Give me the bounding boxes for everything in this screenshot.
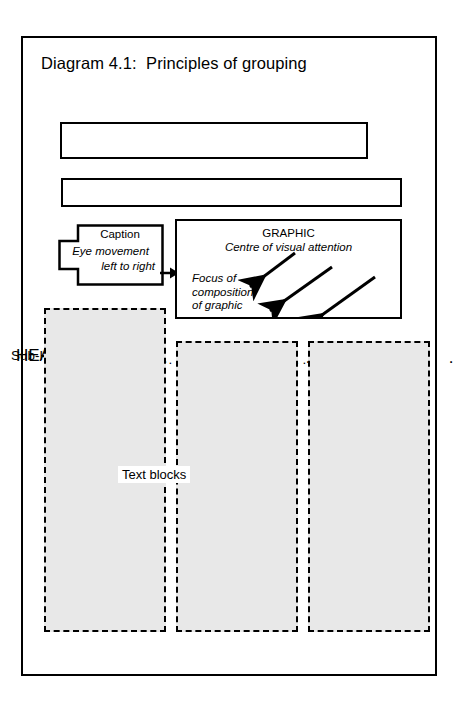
text-block xyxy=(308,341,430,632)
graphic-title: GRAPHIC xyxy=(175,227,402,239)
caption-line-one: Eye movement xyxy=(60,245,161,257)
diagram-page: Diagram 4.1: Principles of grouping HEAD… xyxy=(0,0,461,712)
diagram-title: Diagram 4.1: Principles of grouping xyxy=(41,54,307,73)
subheading-box xyxy=(61,178,402,207)
graphic-focus-text: Focus of composition of graphic xyxy=(192,272,253,313)
caption-title: Caption xyxy=(78,228,162,240)
graphic-subtitle: Centre of visual attention xyxy=(175,241,402,253)
heading-box xyxy=(60,122,368,159)
text-block xyxy=(176,341,298,632)
caption-line-two: left to right xyxy=(60,260,161,272)
text-blocks-label: Text blocks xyxy=(118,466,190,483)
